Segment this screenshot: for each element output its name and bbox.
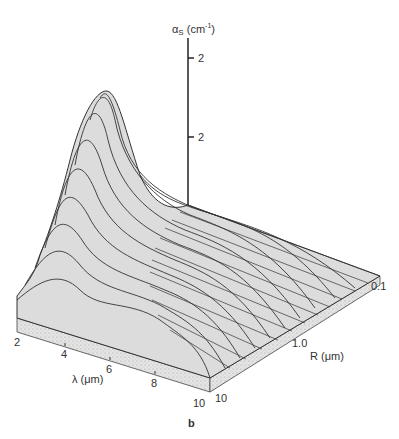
surface-plot [0,0,399,439]
z-unit-close: ) [211,23,215,35]
z-axis-label: αS (cm-1) [172,22,215,37]
z-unit-open: (cm [187,23,205,35]
z-axis [188,38,194,205]
panel-label: b [188,418,195,429]
r-tick-10: 10 [215,393,227,404]
z-subscript: S [178,28,183,37]
r-tick-0-1: 0.1 [371,281,386,292]
lambda-tick-2: 2 [14,337,20,348]
lambda-axis-label: λ (μm) [72,374,103,385]
lambda-tick-4: 4 [61,349,67,360]
z-tick-lower: 2 [198,132,204,143]
lambda-tick-8: 8 [151,378,157,389]
lambda-tick-6: 6 [106,364,112,375]
z-tick-upper: 2 [198,53,204,64]
r-tick-1: 1.0 [292,338,307,349]
r-axis-label: R (μm) [310,351,344,362]
lambda-tick-10: 10 [193,398,205,409]
